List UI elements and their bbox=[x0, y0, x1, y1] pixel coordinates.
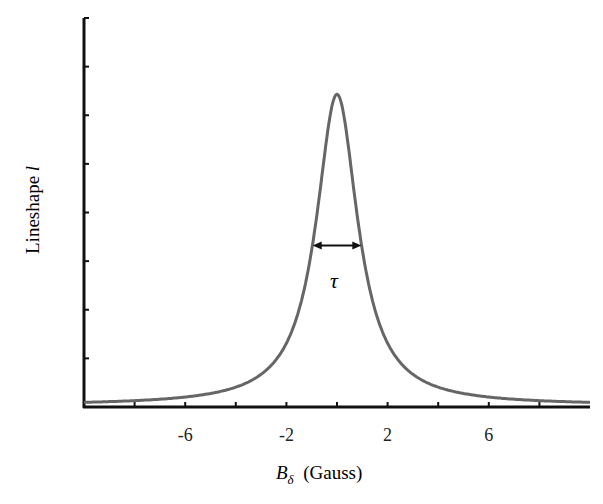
x-tick-label: 2 bbox=[383, 425, 392, 446]
x-tick-label: -6 bbox=[178, 425, 193, 446]
x-axis-label-units: (Gauss) bbox=[303, 462, 362, 483]
lorentzian-curve bbox=[84, 94, 590, 402]
x-axis-label-symbol: B bbox=[276, 462, 288, 483]
tau-width-arrow bbox=[313, 241, 362, 249]
x-axis-label: Bδ (Gauss) bbox=[276, 462, 362, 488]
x-tick-label: 6 bbox=[484, 425, 493, 446]
x-tick-label: -2 bbox=[279, 425, 294, 446]
y-axis-label-symbol: l bbox=[22, 166, 43, 171]
lineshape-chart bbox=[0, 0, 603, 504]
x-axis-label-subscript: δ bbox=[288, 472, 294, 487]
y-axis-label-text: Lineshape bbox=[22, 171, 43, 254]
tau-label: τ bbox=[330, 268, 338, 294]
axes bbox=[83, 18, 590, 408]
